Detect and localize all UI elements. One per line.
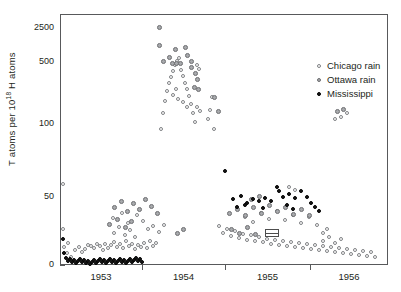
x-tick-label: 1956 bbox=[319, 271, 379, 282]
data-point bbox=[333, 250, 337, 254]
data-point bbox=[243, 213, 248, 218]
data-point bbox=[277, 243, 281, 247]
data-point bbox=[196, 87, 201, 92]
data-point bbox=[193, 71, 198, 76]
data-point bbox=[217, 224, 221, 228]
data-point bbox=[159, 127, 163, 131]
data-point bbox=[139, 245, 143, 249]
data-point bbox=[73, 248, 77, 252]
data-point bbox=[339, 237, 343, 241]
data-point bbox=[140, 260, 144, 264]
data-point bbox=[305, 195, 309, 199]
data-point bbox=[285, 244, 289, 248]
data-point bbox=[178, 61, 183, 66]
x-tick-label: 1954 bbox=[154, 271, 214, 282]
data-point bbox=[245, 225, 250, 230]
data-point bbox=[339, 115, 343, 119]
range-box-bar bbox=[266, 233, 278, 234]
data-point bbox=[309, 201, 313, 205]
y-axis-title-exponent: 18 bbox=[5, 92, 12, 100]
data-point bbox=[171, 93, 175, 97]
data-point bbox=[92, 246, 96, 250]
data-point bbox=[142, 241, 146, 245]
data-point bbox=[273, 238, 277, 242]
legend-label: Chicago rain bbox=[327, 59, 380, 73]
data-point bbox=[117, 225, 121, 229]
data-point bbox=[287, 185, 291, 189]
data-point bbox=[221, 231, 225, 235]
data-point bbox=[66, 241, 70, 245]
data-point bbox=[61, 237, 65, 241]
data-point bbox=[83, 247, 87, 251]
data-point bbox=[133, 235, 137, 239]
data-point bbox=[341, 107, 346, 112]
data-point bbox=[143, 197, 148, 202]
x-tick-mark bbox=[142, 265, 143, 270]
legend-item-1: Chicago rain bbox=[313, 59, 380, 73]
data-point bbox=[216, 109, 221, 114]
data-point bbox=[148, 239, 152, 243]
data-point bbox=[269, 199, 273, 203]
data-point bbox=[125, 209, 130, 214]
data-point bbox=[253, 239, 257, 243]
data-point bbox=[287, 192, 291, 196]
data-point bbox=[173, 47, 178, 52]
data-point bbox=[206, 117, 210, 121]
data-point bbox=[313, 205, 317, 209]
data-point bbox=[112, 231, 116, 235]
data-point bbox=[185, 105, 189, 109]
legend: Chicago rainOttawa rainMississippi bbox=[313, 59, 380, 101]
data-point bbox=[123, 233, 127, 237]
tritium-scatter-figure: T atoms per 1018 H atoms 2500500100500 1… bbox=[0, 0, 401, 292]
data-point bbox=[321, 244, 325, 248]
data-point bbox=[353, 248, 357, 252]
data-point bbox=[361, 249, 365, 253]
data-point bbox=[269, 242, 273, 246]
data-point bbox=[62, 251, 66, 255]
data-point bbox=[305, 242, 309, 246]
data-point bbox=[128, 228, 132, 232]
data-point bbox=[107, 222, 112, 227]
legend-label: Mississippi bbox=[327, 87, 373, 101]
marker-glyph bbox=[317, 92, 321, 96]
legend-item-2: Ottawa rain bbox=[313, 73, 380, 87]
legend-marker-icon bbox=[313, 64, 325, 68]
data-point bbox=[257, 199, 261, 203]
data-point bbox=[299, 221, 303, 225]
data-point bbox=[327, 235, 331, 239]
data-point bbox=[183, 81, 187, 85]
marker-glyph bbox=[317, 78, 322, 83]
data-point bbox=[167, 55, 172, 60]
data-point bbox=[121, 246, 125, 250]
legend-marker-icon bbox=[313, 78, 325, 83]
data-point bbox=[285, 203, 289, 207]
data-point bbox=[261, 240, 265, 244]
data-point bbox=[174, 87, 178, 91]
data-point bbox=[130, 242, 134, 246]
data-point bbox=[251, 197, 255, 201]
data-point bbox=[161, 111, 165, 115]
data-point bbox=[193, 120, 197, 124]
data-point bbox=[329, 245, 333, 249]
y-tick-label: 100 bbox=[10, 119, 54, 128]
data-point bbox=[243, 203, 247, 207]
data-point bbox=[112, 240, 116, 244]
data-point bbox=[373, 255, 377, 259]
data-point bbox=[267, 203, 272, 208]
data-point bbox=[369, 250, 373, 254]
data-point bbox=[321, 239, 325, 243]
data-point bbox=[131, 201, 136, 206]
data-point bbox=[251, 205, 256, 210]
data-point bbox=[187, 94, 191, 98]
data-point bbox=[325, 227, 329, 231]
data-point bbox=[135, 213, 139, 217]
data-point bbox=[235, 205, 239, 209]
data-point bbox=[123, 225, 128, 230]
data-point bbox=[163, 99, 167, 103]
data-point bbox=[155, 211, 160, 216]
data-point bbox=[365, 254, 369, 258]
data-point bbox=[237, 236, 241, 240]
data-point bbox=[357, 253, 361, 257]
data-point bbox=[333, 241, 337, 245]
x-tick-mark bbox=[310, 265, 311, 270]
